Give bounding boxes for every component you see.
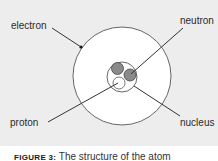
neutron-label: neutron [180,15,214,27]
proton-particle [113,77,125,89]
proton-label: proton [10,117,38,129]
electron-leader-line [52,28,81,47]
figure-caption-text: The structure of the atom [56,151,170,161]
nucleus-label: nucleus [180,117,214,129]
neutron-particle-1 [112,63,124,75]
electron-label: electron [11,20,47,32]
figure-number: FIGURE 3: [14,153,56,161]
figure-caption: FIGURE 3: The structure of the atom [14,151,171,161]
